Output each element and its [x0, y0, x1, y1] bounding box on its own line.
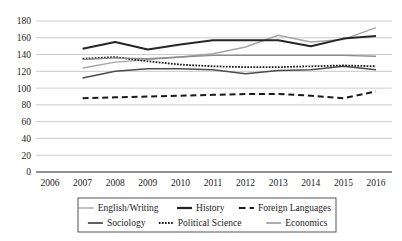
y-tick-label: 20 [22, 151, 32, 161]
x-tick-label: 2011 [204, 178, 223, 188]
legend-label-economics: Economics [285, 218, 328, 228]
y-tick-label: 140 [17, 50, 32, 60]
gridlines [36, 21, 392, 172]
x-tick-label: 2006 [41, 178, 60, 188]
x-tick-label: 2008 [106, 178, 125, 188]
y-tick-label: 40 [22, 134, 32, 144]
chart-legend: English/WritingHistoryForeign LanguagesS… [78, 198, 336, 232]
y-tick-label: 0 [26, 167, 31, 177]
y-tick-label: 100 [17, 84, 32, 94]
x-tick-label: 2009 [138, 178, 157, 188]
legend-label-foreign-languages: Foreign Languages [258, 203, 331, 213]
x-tick-label: 2007 [73, 178, 92, 188]
legend-label-history: History [196, 203, 225, 213]
x-tick-label: 2014 [301, 178, 320, 188]
legend-label-english-writing: English/Writing [98, 203, 159, 213]
x-tick-label: 2010 [171, 178, 190, 188]
y-tick-label: 160 [17, 33, 32, 43]
line-chart: 020406080100120140160180 200620072008200… [0, 0, 402, 241]
legend-label-sociology: Sociology [107, 218, 146, 228]
x-tick-label: 2013 [269, 178, 288, 188]
y-tick-label: 80 [22, 100, 32, 110]
legend-label-political-science: Political Science [178, 218, 242, 228]
x-tick-label: 2015 [334, 178, 353, 188]
y-tick-label: 180 [17, 16, 32, 26]
chart-container: 020406080100120140160180 200620072008200… [0, 0, 402, 241]
y-axis-tick-labels: 020406080100120140160180 [17, 16, 32, 177]
y-tick-label: 60 [22, 117, 32, 127]
series-line-sociology [83, 66, 376, 78]
x-axis-tick-labels: 2006200720082009201020112012201320142015… [41, 178, 386, 188]
series-line-foreign-languages [83, 91, 376, 98]
y-tick-label: 120 [17, 67, 32, 77]
x-tick-label: 2012 [236, 178, 255, 188]
x-tick-label: 2016 [367, 178, 386, 188]
series-line-english-writing [83, 28, 376, 68]
data-series-group [83, 28, 376, 98]
